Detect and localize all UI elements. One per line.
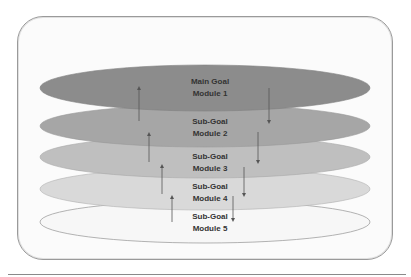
layer-1-module: Module 1	[150, 88, 270, 100]
layer-4-label: Sub-Goal Module 4	[150, 181, 270, 205]
layer-2-label: Sub-Goal Module 2	[150, 116, 270, 140]
layer-3-module: Module 3	[150, 163, 270, 175]
layer-4-module: Module 4	[150, 193, 270, 205]
layer-2-title: Sub-Goal	[150, 116, 270, 128]
layer-4-title: Sub-Goal	[150, 181, 270, 193]
layer-3-title: Sub-Goal	[150, 151, 270, 163]
layer-3-label: Sub-Goal Module 3	[150, 151, 270, 175]
layer-5-module: Module 5	[150, 223, 270, 235]
bottom-divider	[8, 274, 406, 275]
layer-5-title: Sub-Goal	[150, 211, 270, 223]
layer-2-module: Module 2	[150, 128, 270, 140]
layer-5-label: Sub-Goal Module 5	[150, 211, 270, 235]
layer-1-label: Main Goal Module 1	[150, 76, 270, 100]
layer-1-title: Main Goal	[150, 76, 270, 88]
